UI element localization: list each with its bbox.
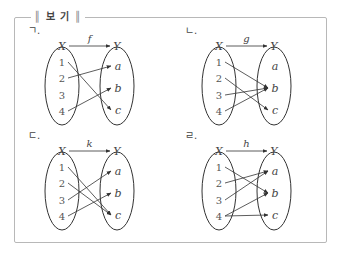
domain-element: 4 — [59, 211, 65, 222]
panel-label: ㄷ. — [28, 130, 40, 141]
domain-name: X — [57, 40, 67, 53]
panel-label: ㄹ. — [185, 130, 197, 141]
domain-element: 2 — [216, 73, 222, 84]
mapping-diagrams: ㄱ.XYf1234abcㄴ.XYg1234abcㄷ.XYk1234abcㄹ.XY… — [0, 0, 343, 254]
mapping-arrow-2-to-a — [68, 66, 111, 78]
mapping-arrow-2-to-a — [225, 171, 268, 183]
codomain-name: Y — [113, 145, 122, 158]
codomain-name: Y — [113, 40, 122, 53]
mapping-panel-f: ㄱ.XYf1234abc — [28, 25, 134, 125]
codomain-element: a — [272, 60, 279, 73]
domain-element: 1 — [59, 162, 65, 173]
domain-name: X — [214, 40, 224, 53]
mapping-arrow-4-to-c — [225, 215, 268, 216]
domain-element: 1 — [216, 162, 222, 173]
codomain-element: a — [272, 165, 279, 178]
domain-element: 2 — [59, 178, 65, 189]
codomain-element: b — [114, 187, 121, 200]
domain-element: 4 — [216, 106, 222, 117]
mapping-arrow-4-to-b — [225, 193, 268, 216]
panel-label: ㄱ. — [28, 25, 40, 36]
domain-element: 4 — [59, 106, 65, 117]
codomain-element: b — [271, 82, 278, 95]
mapping-arrow-2-to-c — [68, 183, 111, 215]
mapping-panel-g: ㄴ.XYg1234abc — [185, 25, 291, 125]
mapping-arrow-4-to-b — [68, 193, 111, 216]
domain-element: 1 — [216, 57, 222, 68]
codomain-element: a — [115, 165, 122, 178]
function-name: f — [87, 33, 94, 44]
domain-element: 3 — [216, 90, 222, 101]
codomain-element: b — [114, 82, 121, 95]
domain-element: 2 — [59, 73, 65, 84]
codomain-element: c — [115, 104, 121, 117]
codomain-element: c — [272, 209, 278, 222]
codomain-element: c — [115, 209, 121, 222]
function-name: h — [243, 138, 249, 149]
domain-element: 3 — [59, 195, 65, 206]
domain-element: 4 — [216, 211, 222, 222]
mapping-arrow-1-to-c — [68, 167, 111, 215]
mapping-arrow-1-to-b — [225, 167, 268, 193]
domain-element: 3 — [59, 90, 65, 101]
mapping-panel-k: ㄷ.XYk1234abc — [28, 130, 134, 230]
mapping-arrow-1-to-c — [68, 62, 111, 110]
domain-element: 3 — [216, 195, 222, 206]
codomain-name: Y — [270, 40, 279, 53]
mapping-arrow-3-to-a — [68, 171, 111, 200]
panel-label: ㄴ. — [185, 25, 197, 36]
mapping-arrow-1-to-b — [225, 62, 268, 88]
domain-element: 1 — [59, 57, 65, 68]
codomain-name: Y — [270, 145, 279, 158]
mapping-arrow-3-to-a — [225, 171, 268, 200]
mapping-panel-h: ㄹ.XYh1234abc — [185, 130, 291, 230]
codomain-element: c — [272, 104, 278, 117]
codomain-element: a — [115, 60, 122, 73]
domain-name: X — [214, 145, 224, 158]
domain-name: X — [57, 145, 67, 158]
mapping-arrow-4-to-b — [68, 88, 111, 111]
domain-element: 2 — [216, 178, 222, 189]
codomain-element: b — [271, 187, 278, 200]
function-name: g — [243, 33, 249, 44]
function-name: k — [86, 138, 92, 149]
